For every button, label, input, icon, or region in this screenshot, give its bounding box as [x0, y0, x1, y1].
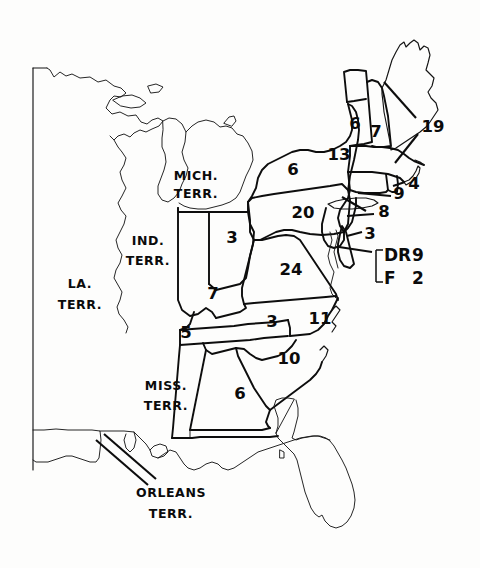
western-boundary-line [33, 68, 47, 470]
label-louisiana-territory-line2: TERR. [58, 297, 102, 312]
label-orleans-territory-line1: ORLEANS [136, 485, 206, 500]
label-michigan-territory-line2: TERR. [174, 186, 218, 201]
label-louisiana-territory-line1: LA. [68, 276, 92, 291]
vote-label-connecticut: 9 [393, 184, 404, 203]
maryland-dr-party: DR [384, 245, 411, 265]
northern-border-outline [47, 68, 253, 333]
vote-label-vermont: 6 [349, 114, 360, 133]
gulf-coast-outline [33, 429, 330, 470]
label-michigan-territory-line1: MICH. [174, 168, 218, 183]
vote-label-rhode-island: 4 [408, 174, 419, 193]
vote-label-delaware: 3 [364, 224, 375, 243]
vote-label-new-york: 13 [328, 145, 351, 164]
maryland-split-labels: DR 9 F 2 [384, 245, 424, 288]
florida-outline [274, 398, 355, 528]
vote-label-new-york-west: 6 [287, 160, 298, 179]
maryland-f-votes: 2 [412, 268, 424, 288]
vote-label-ohio: 3 [226, 228, 237, 247]
vote-label-north-carolina-east: 11 [309, 309, 332, 328]
vote-label-virginia: 24 [280, 260, 303, 279]
vote-label-kentucky: 7 [207, 284, 218, 303]
vote-label-south-carolina: 10 [278, 349, 301, 368]
vote-label-pennsylvania: 20 [292, 203, 315, 222]
vote-label-georgia: 6 [234, 384, 245, 403]
vote-label-massachusetts: 19 [422, 117, 445, 136]
label-mississippi-territory-line2: TERR. [144, 398, 188, 413]
mississippi-territory-outline [172, 345, 278, 438]
maryland-dr-votes: 9 [412, 245, 424, 265]
map-canvas: 6 7 19 13 4 9 8 20 6 3 3 24 7 5 3 11 10 … [0, 0, 480, 568]
label-indiana-territory-line1: IND. [132, 233, 165, 248]
vote-label-tennessee: 5 [180, 323, 191, 342]
ohio-outline [209, 212, 254, 290]
label-indiana-territory-line2: TERR. [126, 253, 170, 268]
connecticut-outline [348, 172, 388, 193]
vote-label-new-jersey: 8 [378, 202, 389, 221]
georgia-outline [190, 350, 270, 430]
vote-label-north-carolina: 3 [266, 312, 277, 331]
label-orleans-territory-line2: TERR. [149, 506, 193, 521]
vote-label-new-hampshire: 7 [370, 122, 381, 141]
electoral-vote-map: 6 7 19 13 4 9 8 20 6 3 3 24 7 5 3 11 10 … [0, 0, 480, 568]
maryland-f-party: F [384, 268, 396, 288]
label-mississippi-territory-line1: MISS. [145, 378, 187, 393]
